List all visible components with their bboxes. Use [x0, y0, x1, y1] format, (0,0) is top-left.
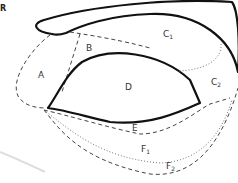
corner-mark: R — [0, 4, 6, 13]
scan-artifact — [0, 152, 45, 172]
label-a: A — [38, 71, 44, 80]
label-f2: F2 — [166, 162, 175, 172]
zone-f2-boundary — [44, 88, 238, 174]
label-b: B — [86, 44, 92, 53]
eye-zone-diagram — [0, 0, 238, 183]
eyebrow-outline — [36, 1, 238, 72]
label-c1-sub: 1 — [169, 33, 173, 40]
label-c2: C2 — [211, 78, 221, 88]
label-d: D — [125, 83, 132, 92]
label-f1: F1 — [141, 145, 150, 155]
label-f2-sub: 2 — [171, 165, 175, 172]
zone-a-boundary — [16, 35, 50, 108]
label-f1-sub: 1 — [146, 148, 150, 155]
zone-f1-boundary — [44, 100, 232, 163]
label-c2-sub: 2 — [217, 81, 221, 88]
label-c1: C1 — [163, 30, 173, 40]
zone-c-divider — [178, 44, 221, 71]
zone-b-top-boundary — [70, 32, 150, 48]
label-e: E — [132, 124, 138, 133]
